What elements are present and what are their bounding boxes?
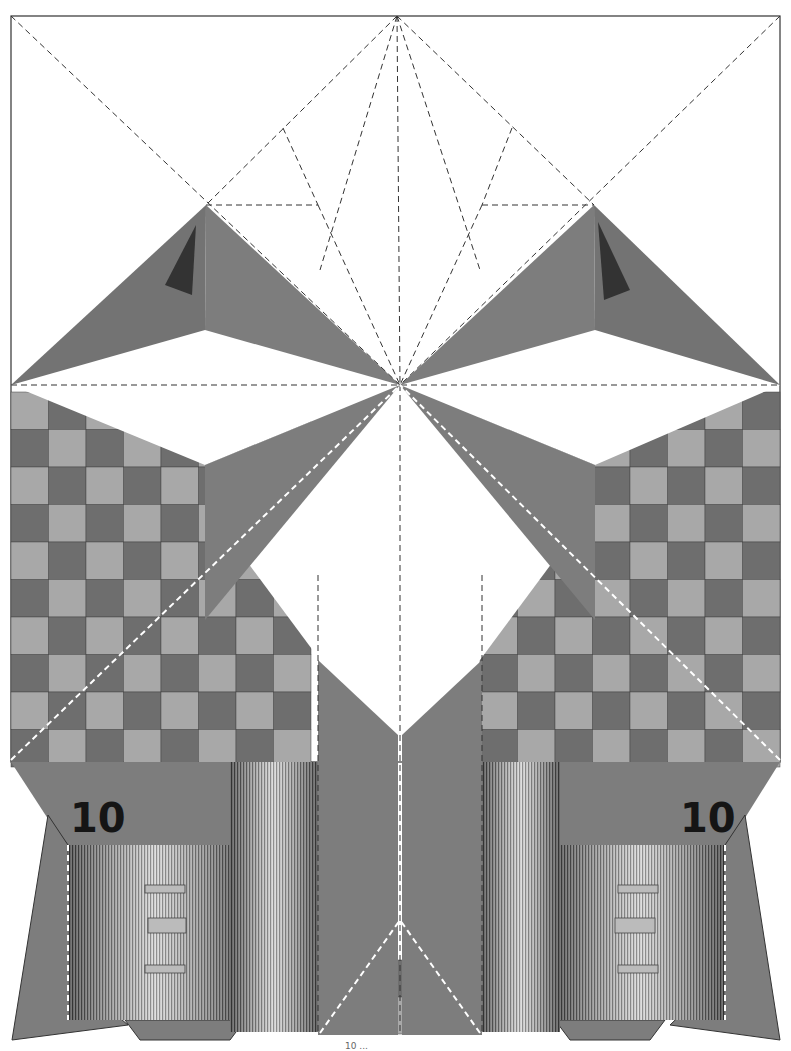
checker-square [668, 617, 706, 655]
checker-square [630, 467, 668, 505]
panel-left-upper-fold [205, 205, 400, 385]
checker-square [593, 580, 631, 618]
checker-square [668, 430, 706, 468]
checker-square [49, 692, 87, 730]
bottom-tab-left [125, 1020, 245, 1040]
checker-square [11, 617, 49, 655]
checker-square [11, 467, 49, 505]
checker-square [49, 580, 87, 618]
checker-square [124, 692, 162, 730]
checker-square [705, 617, 743, 655]
checker-square [705, 580, 743, 618]
checker-square [743, 580, 781, 618]
checker-square [86, 467, 124, 505]
checker-square [124, 505, 162, 543]
checker-square [86, 617, 124, 655]
checker-square [49, 617, 87, 655]
panel-right-upper-fold-b [594, 205, 780, 385]
checker-square [630, 617, 668, 655]
checker-square [743, 467, 781, 505]
checker-square [49, 542, 87, 580]
checker-square [49, 655, 87, 693]
checker-square [630, 730, 668, 768]
checker-square [161, 730, 199, 768]
checker-square [124, 655, 162, 693]
checker-square [161, 692, 199, 730]
checker-square [705, 430, 743, 468]
papercraft-template: 10 10 10 ... [0, 0, 791, 1051]
checker-square [49, 505, 87, 543]
checker-square [274, 655, 312, 693]
checker-square [555, 692, 593, 730]
checker-square [86, 580, 124, 618]
checker-square [743, 730, 781, 768]
checker-square [518, 692, 556, 730]
checker-square [86, 730, 124, 768]
checker-square [593, 505, 631, 543]
checker-square [199, 655, 237, 693]
checker-square [555, 730, 593, 768]
checker-square [124, 467, 162, 505]
checker-square [743, 542, 781, 580]
checker-square [49, 430, 87, 468]
checker-square [124, 542, 162, 580]
checker-square [274, 730, 312, 768]
checker-square [705, 467, 743, 505]
checker-square [518, 617, 556, 655]
checker-square [630, 542, 668, 580]
checker-square [705, 692, 743, 730]
bottom-tab-right [555, 1020, 665, 1040]
checker-square [11, 505, 49, 543]
checker-square [630, 655, 668, 693]
checker-square [743, 617, 781, 655]
panel-left-upper-fold-b [11, 205, 206, 385]
checker-square [743, 430, 781, 468]
checker-square [199, 692, 237, 730]
checker-square [11, 430, 49, 468]
checker-square [480, 692, 518, 730]
checker-square [124, 730, 162, 768]
checker-square [236, 730, 274, 768]
checker-square [161, 655, 199, 693]
checker-square [555, 655, 593, 693]
checker-square [593, 542, 631, 580]
checker-square [11, 692, 49, 730]
checker-square [668, 655, 706, 693]
checker-square [630, 692, 668, 730]
checker-square [236, 655, 274, 693]
panel-right-upper-fold [400, 205, 595, 385]
part-label-left: 10 [70, 795, 126, 841]
checker-square [743, 505, 781, 543]
checker-square [743, 692, 781, 730]
checker-square [236, 692, 274, 730]
checker-square [236, 617, 274, 655]
checker-square [161, 505, 199, 543]
checker-square [668, 730, 706, 768]
checker-square [593, 692, 631, 730]
checker-square [705, 542, 743, 580]
checker-square [11, 655, 49, 693]
checker-square [49, 467, 87, 505]
checker-square [705, 730, 743, 768]
checker-square [161, 467, 199, 505]
caption: 10 ... [345, 1041, 368, 1051]
checker-square [705, 505, 743, 543]
checker-square [743, 655, 781, 693]
checker-square [199, 730, 237, 768]
checker-square [555, 617, 593, 655]
checker-square [668, 542, 706, 580]
checker-square [86, 692, 124, 730]
checker-square [199, 617, 237, 655]
checker-square [630, 505, 668, 543]
checker-square [480, 655, 518, 693]
checker-square [49, 730, 87, 768]
checker-square [668, 467, 706, 505]
checker-square [593, 467, 631, 505]
checker-square [593, 617, 631, 655]
checker-square [593, 730, 631, 768]
checker-square [668, 692, 706, 730]
checker-square [86, 505, 124, 543]
checker-square [274, 692, 312, 730]
checker-square [86, 542, 124, 580]
checker-square [518, 730, 556, 768]
